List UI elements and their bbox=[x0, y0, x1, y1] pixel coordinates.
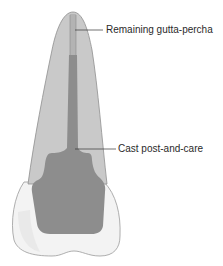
tooth-diagram bbox=[0, 0, 223, 266]
gutta-percha-label: Remaining gutta-percha bbox=[106, 24, 213, 36]
gutta-percha-fill bbox=[70, 14, 76, 56]
cast-post-label: Cast post-and-care bbox=[118, 143, 203, 155]
